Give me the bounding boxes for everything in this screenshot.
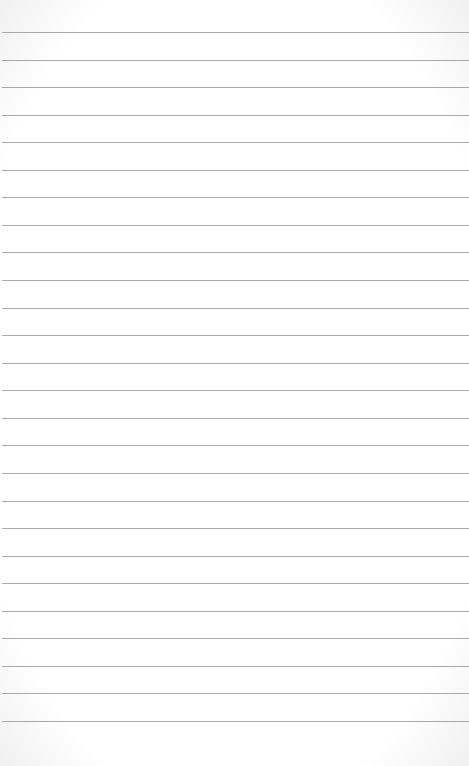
- ruled-line: [2, 528, 469, 529]
- ruled-line: [2, 115, 469, 116]
- ruled-line: [2, 170, 469, 171]
- ruled-line: [2, 308, 469, 309]
- ruled-line: [2, 280, 469, 281]
- ruled-line: [2, 363, 469, 364]
- ruled-line: [2, 721, 469, 722]
- ruled-line: [2, 87, 469, 88]
- ruled-line: [2, 501, 469, 502]
- ruled-line: [2, 693, 469, 694]
- ruled-line: [2, 611, 469, 612]
- ruled-line: [2, 556, 469, 557]
- ruled-line: [2, 197, 469, 198]
- ruled-line: [2, 225, 469, 226]
- ruled-line: [2, 638, 469, 639]
- ruled-line: [2, 418, 469, 419]
- ruled-line: [2, 390, 469, 391]
- ruled-line: [2, 335, 469, 336]
- lined-paper: [0, 0, 469, 766]
- ruled-line: [2, 60, 469, 61]
- ruled-line: [2, 445, 469, 446]
- ruled-line: [2, 583, 469, 584]
- ruled-line: [2, 32, 469, 33]
- ruled-line: [2, 142, 469, 143]
- ruled-line: [2, 473, 469, 474]
- ruled-line: [2, 666, 469, 667]
- ruled-line: [2, 252, 469, 253]
